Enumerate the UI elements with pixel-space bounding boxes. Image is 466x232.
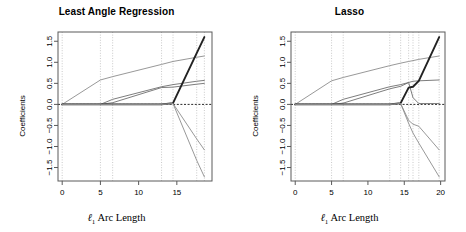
panel-least-angle-regression: Least Angle Regression Coefficients 0510… — [0, 0, 233, 232]
coefficient-path — [62, 104, 204, 177]
y-axis-tick-label: −1.0 — [279, 138, 288, 154]
y-axis-tick-label: 0.0 — [279, 98, 288, 110]
x-axis-tick-label: 0 — [60, 188, 65, 197]
coefficient-path — [295, 37, 439, 104]
panel-lasso: Lasso Coefficients 05101520−1.5−1.0−0.50… — [233, 0, 466, 232]
x-axis-tick-label: 0 — [293, 188, 298, 197]
coefficient-path — [295, 56, 439, 104]
y-axis-tick-label: 0.5 — [46, 77, 55, 89]
y-axis-tick-label: 1.0 — [279, 56, 288, 68]
x-axis-tick-label: 5 — [329, 188, 334, 197]
figure-root: Least Angle Regression Coefficients 0510… — [0, 0, 466, 232]
y-axis-tick-label: −1.0 — [46, 138, 55, 154]
coefficient-path — [295, 80, 439, 104]
x-axis-label: ℓ1 Arc Length — [0, 212, 233, 226]
x-axis-label: ℓ1 Arc Length — [233, 212, 466, 226]
x-axis-label-rest: Arc Length — [328, 212, 378, 223]
y-axis-tick-label: 1.5 — [279, 35, 288, 47]
y-axis-tick-label: 0.0 — [46, 98, 55, 110]
plot-area-lasso: 05101520−1.5−1.0−0.50.00.51.01.5 — [233, 0, 466, 232]
coefficient-path — [295, 104, 439, 150]
y-axis-tick-label: −1.5 — [279, 159, 288, 175]
plot-area-lar: 051015−1.5−1.0−0.50.00.51.01.5 — [0, 0, 233, 232]
plot-box — [58, 32, 212, 181]
plot-box — [291, 32, 445, 181]
x-axis-tick-label: 10 — [363, 188, 372, 197]
x-axis-tick-label: 5 — [98, 188, 103, 197]
y-axis-tick-label: 1.0 — [46, 56, 55, 68]
y-axis-tick-label: 0.5 — [279, 77, 288, 89]
coefficient-path — [295, 104, 439, 177]
x-axis-tick-label: 10 — [134, 188, 143, 197]
coefficient-path — [295, 83, 439, 105]
x-axis-label-rest: Arc Length — [95, 212, 145, 223]
y-axis-tick-label: 1.5 — [46, 35, 55, 47]
x-axis-tick-label: 20 — [436, 188, 445, 197]
y-axis-tick-label: −1.5 — [46, 159, 55, 175]
y-axis-tick-label: −0.5 — [46, 117, 55, 133]
x-axis-tick-label: 15 — [400, 188, 409, 197]
x-axis-tick-label: 15 — [172, 188, 181, 197]
y-axis-tick-label: −0.5 — [279, 117, 288, 133]
